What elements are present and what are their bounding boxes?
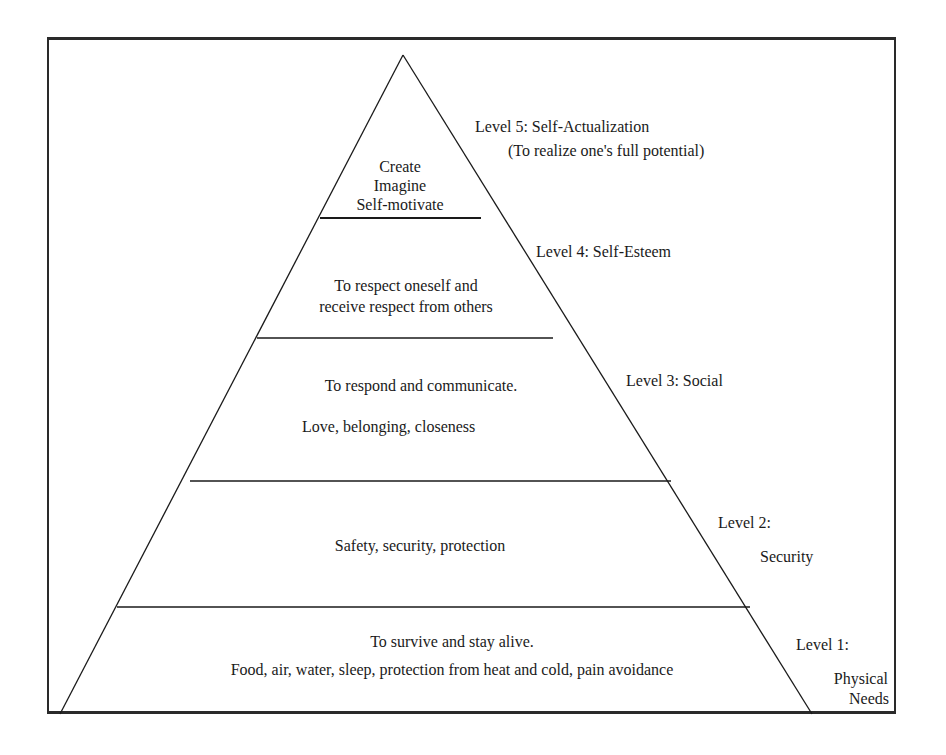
level-1-content-2: Food, air, water, sleep, protection from… — [231, 661, 674, 679]
level-5-label: Level 5: Self-Actualization — [475, 118, 649, 136]
level-5-content-3: Self-motivate — [356, 196, 443, 214]
level-4-label: Level 4: Self-Esteem — [536, 243, 671, 261]
level-2-sublabel: Security — [760, 548, 813, 566]
level-1-sublabel-2: Needs — [812, 690, 889, 708]
level-1-sublabel-1: Physical — [812, 670, 888, 688]
level-3-label: Level 3: Social — [626, 372, 723, 390]
level-3-content-1: To respond and communicate. — [325, 377, 518, 395]
level-1-label: Level 1: — [796, 636, 849, 654]
level-5-content-2: Imagine — [374, 177, 426, 195]
level-2-content: Safety, security, protection — [335, 537, 505, 555]
level-5-sublabel: (To realize one's full potential) — [508, 142, 704, 160]
level-5-content-1: Create — [379, 158, 421, 176]
level-3-content-2: Love, belonging, closeness — [302, 418, 475, 436]
level-1-content-1: To survive and stay alive. — [370, 633, 534, 651]
level-4-content-1: To respect oneself and — [334, 277, 477, 295]
level-4-content-2: receive respect from others — [319, 298, 493, 316]
level-2-label: Level 2: — [718, 514, 771, 532]
